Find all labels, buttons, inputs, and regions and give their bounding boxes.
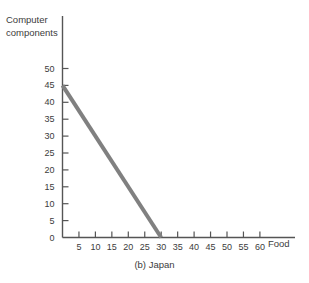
- y-tick-label: 45: [33, 80, 55, 90]
- x-tick-label: 20: [123, 242, 133, 252]
- y-tick-label: 35: [33, 114, 55, 124]
- x-tick-label: 30: [156, 242, 166, 252]
- x-tick-label: 10: [90, 242, 100, 252]
- x-tick-label: 55: [238, 242, 248, 252]
- y-tick-label: 20: [33, 165, 55, 175]
- axis-ticks: [63, 69, 260, 238]
- y-tick-label: 30: [33, 131, 55, 141]
- figure-caption: (b) Japan: [0, 259, 309, 270]
- y-tick-label: 15: [33, 182, 55, 192]
- x-tick-label: 35: [173, 242, 183, 252]
- x-tick-label: 5: [76, 242, 81, 252]
- x-tick-label: 45: [206, 242, 216, 252]
- x-tick-label: 60: [255, 242, 265, 252]
- ppf-line: [63, 85, 162, 237]
- y-tick-label: 10: [33, 199, 55, 209]
- data-series: [63, 85, 162, 237]
- x-tick-label: 15: [107, 242, 117, 252]
- chart-figure: Computer components Food 051015202530354…: [0, 0, 309, 283]
- x-tick-label: 50: [222, 242, 232, 252]
- x-tick-label: 25: [140, 242, 150, 252]
- axes: [63, 16, 296, 238]
- y-tick-label: 40: [33, 97, 55, 107]
- y-tick-label: 5: [33, 216, 55, 226]
- y-tick-label: 50: [33, 64, 55, 74]
- x-tick-label: 40: [189, 242, 199, 252]
- y-tick-label: 25: [33, 148, 55, 158]
- y-tick-label: 0: [33, 233, 55, 243]
